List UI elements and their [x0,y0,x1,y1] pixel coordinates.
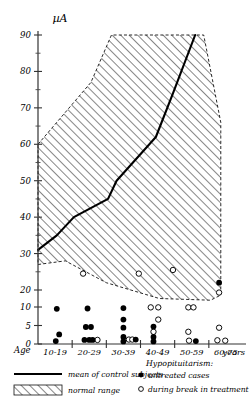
x-axis-title: Age [13,345,31,355]
y-axis-tick-label: 90 [20,30,31,40]
data-point-break [223,338,228,343]
legend-untreated-label: untreated cases [148,371,209,380]
data-point-break [170,267,175,272]
data-point-break [151,329,156,334]
data-point-break [215,338,220,343]
y-axis-tick-label: 80 [20,66,31,76]
data-point-break [80,271,85,276]
data-point-break [156,317,161,322]
data-point-untreated [121,317,127,323]
data-point-untreated [216,280,222,286]
chart-figure: 05102030405060708090 10-1920-2930-3940-4… [0,0,250,406]
data-point-break [216,325,221,330]
data-point-untreated [193,338,199,344]
data-point-untreated [121,305,127,311]
data-point-break [148,305,153,310]
x-axis-tick-label: 20-29 [76,347,101,357]
data-point-untreated [151,339,157,345]
y-axis-title: µA [52,12,67,25]
data-point-break [156,305,161,310]
data-point-untreated [83,324,89,330]
data-point-untreated [88,324,94,330]
x-axis-unit-suffix: years [222,347,245,357]
data-point-untreated [121,339,127,345]
x-axis-tick-label: 10-19 [43,347,67,357]
legend-group-title: Hypopituitarism: [145,359,213,368]
y-axis-tick-label: 5 [26,321,31,331]
data-point-untreated [54,306,60,312]
x-axis-tick-labels: 10-1920-2930-3940-4950-5960-75years [43,347,245,357]
data-point-untreated [133,337,139,343]
legend-filled-circle-icon [139,373,144,378]
y-axis-tick-label: 50 [20,176,31,186]
data-point-break [216,290,221,295]
x-axis-tick-label: 50-59 [180,347,204,357]
data-point-break [186,329,191,334]
data-point-untreated [121,325,127,331]
data-point-untreated [53,338,59,344]
y-axis-tick-label: 10 [20,302,31,312]
data-point-break [191,305,196,310]
data-point-untreated [85,306,91,312]
data-point-break [186,338,191,343]
x-axis-tick-label: 40-49 [145,347,170,357]
y-axis-tick-labels: 05102030405060708090 [19,30,31,349]
y-axis-tick-label: 70 [20,103,31,113]
data-point-break [136,271,141,276]
legend-range-label: normal range [68,386,121,395]
x-axis-tick-label: 30-39 [112,347,136,357]
y-axis-tick-label: 60 [20,139,31,149]
data-point-untreated [56,331,62,337]
legend-range-swatch [14,385,62,395]
legend-open-circle-icon [139,387,144,392]
legend-break-label: during break in treatment [148,385,250,394]
y-axis-tick-label: 20 [19,285,31,295]
data-point-untreated [151,324,157,330]
y-axis-tick-label: 30 [20,249,31,259]
data-point-untreated [90,337,96,343]
data-point-break [186,305,191,310]
chart-legend: mean of control subjects normal range Hy… [14,359,250,395]
y-axis-tick-label: 40 [19,212,31,222]
